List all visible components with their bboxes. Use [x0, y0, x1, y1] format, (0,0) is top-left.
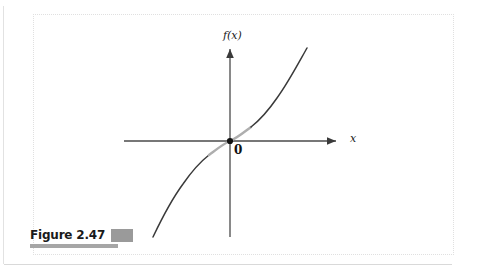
figure-caption-swatch [111, 229, 133, 242]
page-bottom-rule [4, 264, 452, 265]
figure-caption-inner: Figure 2.47 [30, 228, 133, 248]
figure-caption-block: Figure 2.47 [30, 228, 133, 248]
curve-right-dark-branch [251, 48, 307, 127]
figure-caption-label: Figure 2.47 [30, 228, 111, 242]
cubic-function-plot: f(x) x 0 [110, 22, 370, 247]
x-axis-arrowhead [327, 137, 336, 145]
origin-label: 0 [234, 143, 242, 157]
figure-caption-underbar [30, 244, 118, 248]
curve-left-dark-branch [153, 155, 209, 237]
plot-svg [110, 22, 370, 247]
y-axis-arrowhead [226, 49, 234, 58]
figure-page: f(x) x 0 Figure 2.47 [0, 0, 481, 275]
x-axis-label: x [350, 132, 356, 145]
page-left-rule [3, 6, 4, 264]
origin-dot [227, 138, 233, 144]
y-axis-label: f(x) [223, 29, 242, 42]
figure-caption-row: Figure 2.47 [30, 228, 133, 242]
